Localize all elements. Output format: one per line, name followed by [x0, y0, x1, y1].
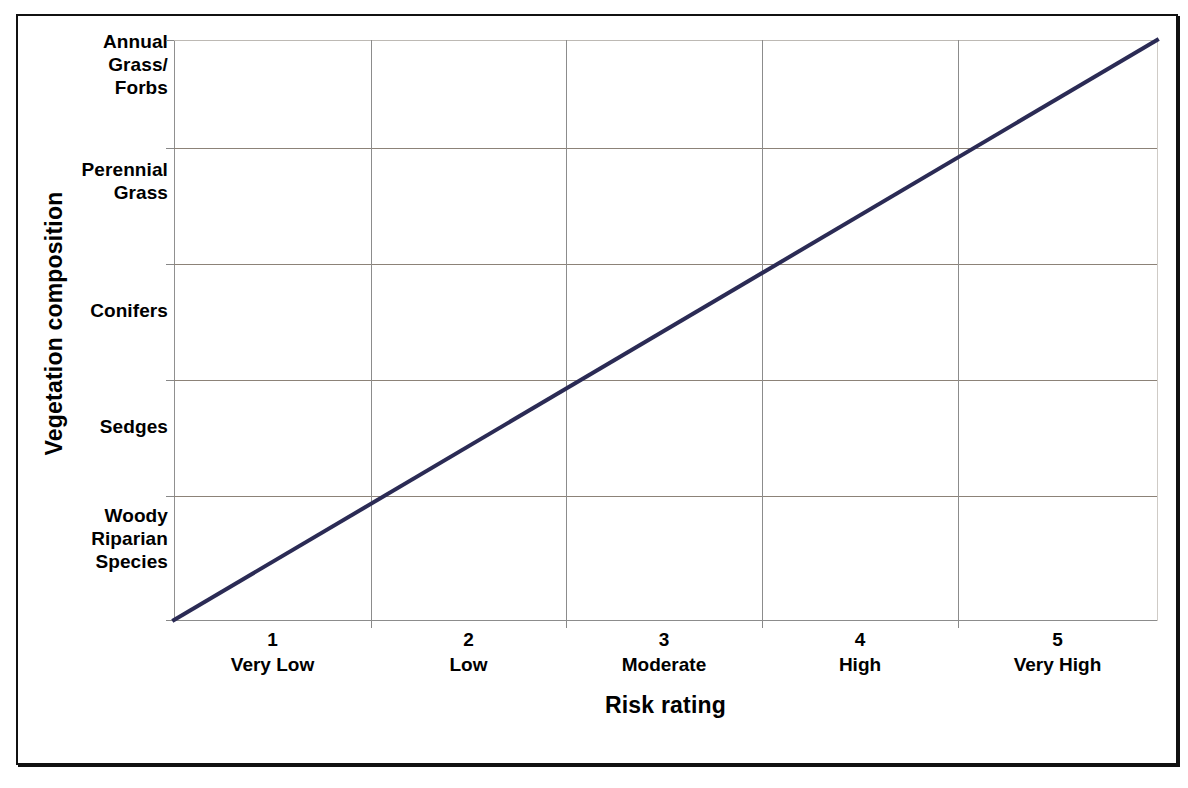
series-line-vegetation-vs-risk [174, 40, 1157, 620]
y-tick-line: Woody [46, 504, 168, 527]
x-tick-group-1: 1 Very Low [174, 628, 371, 678]
x-tick-mark [958, 621, 959, 628]
y-tick-mark [166, 496, 174, 497]
y-tick-line: Annual [46, 30, 168, 53]
x-tick-number: 5 [958, 628, 1157, 652]
y-tick-label-conifers: Conifers [46, 299, 168, 322]
y-tick-line: Grass/ [46, 53, 168, 76]
y-tick-label-sedges: Sedges [46, 415, 168, 438]
y-tick-mark [166, 264, 174, 265]
y-tick-mark [166, 40, 174, 41]
x-tick-number: 4 [762, 628, 958, 652]
x-tick-number: 2 [371, 628, 566, 652]
y-tick-line: Perennial [46, 158, 168, 181]
x-tick-group-2: 2 Low [371, 628, 566, 678]
plot-right-edge [1157, 40, 1158, 621]
x-tick-description: Very High [958, 652, 1157, 678]
series-line-layer [174, 40, 1157, 620]
y-tick-line: Grass [46, 181, 168, 204]
figure-container: Vegetation composition Annual Grass/ For… [0, 0, 1188, 788]
x-axis-title: Risk rating [174, 692, 1157, 719]
x-tick-mark [762, 621, 763, 628]
x-axis-line [174, 620, 1158, 621]
bottom-caption [22, 770, 622, 784]
y-tick-label-perennial-grass: Perennial Grass [46, 158, 168, 204]
x-tick-number: 3 [566, 628, 762, 652]
y-tick-line: Forbs [46, 76, 168, 99]
x-tick-description: Moderate [566, 652, 762, 678]
y-tick-label-woody-riparian-species: Woody Riparian Species [46, 504, 168, 573]
x-tick-number: 1 [174, 628, 371, 652]
y-tick-line: Conifers [46, 299, 168, 322]
x-tick-group-5: 5 Very High [958, 628, 1157, 678]
x-tick-mark [371, 621, 372, 628]
y-axis-tick-labels: Annual Grass/ Forbs Perennial Grass Coni… [46, 40, 168, 620]
y-tick-line: Sedges [46, 415, 168, 438]
y-tick-mark [166, 148, 174, 149]
x-tick-mark [566, 621, 567, 628]
x-tick-description: Very Low [174, 652, 371, 678]
x-tick-group-3: 3 Moderate [566, 628, 762, 678]
x-tick-group-4: 4 High [762, 628, 958, 678]
y-tick-line: Species [46, 550, 168, 573]
y-tick-line: Riparian [46, 527, 168, 550]
y-tick-mark [166, 380, 174, 381]
y-tick-label-annual-grass-forbs: Annual Grass/ Forbs [46, 30, 168, 99]
x-tick-description: Low [371, 652, 566, 678]
x-tick-description: High [762, 652, 958, 678]
